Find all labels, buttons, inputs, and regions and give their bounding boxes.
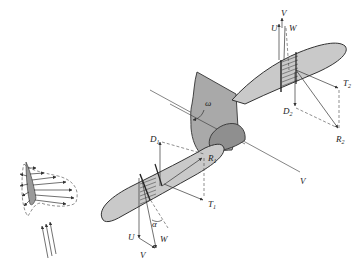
airfoil-section [26,162,36,205]
upper-r-label: R2 [335,134,345,145]
lower-d-label: D1 [149,134,160,145]
upper-blade [232,43,346,104]
incoming-flow-arrows [42,222,56,258]
alpha-label: α [152,219,157,229]
lower-w-label: W [160,234,169,244]
diagram-canvas: V ω [0,0,363,274]
omega-label: ω [205,98,211,108]
propeller-diagram: V ω [0,0,363,274]
upper-d-label: D2 [282,106,293,117]
axis-v-label: V [300,176,307,186]
upper-w-label: W [289,23,298,33]
pressure-distribution-inset [20,162,77,258]
lower-u-label: U [128,232,135,242]
lower-v-label: V [140,250,147,260]
upper-u-label: U [271,23,278,33]
lower-t-label: T1 [208,199,216,210]
lower-blade [101,144,224,221]
upper-v-label: V [281,8,288,18]
upper-t-label: T2 [343,78,351,89]
